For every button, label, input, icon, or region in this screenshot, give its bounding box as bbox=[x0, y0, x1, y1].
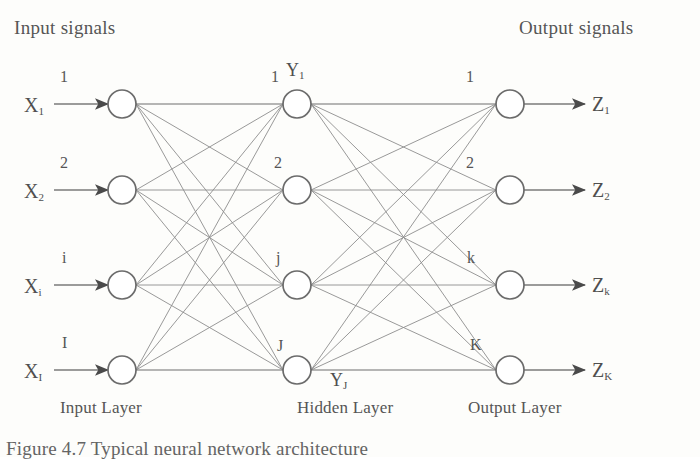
output-signal-label-2: Z2 bbox=[592, 180, 610, 200]
hidden-output-label-first: Y1 bbox=[286, 61, 305, 79]
input-node-index-i: i bbox=[62, 250, 66, 266]
input-node-index-I: I bbox=[62, 335, 67, 351]
hidden-node-index-1: 1 bbox=[271, 69, 279, 85]
input-hidden-connections bbox=[136, 104, 283, 370]
input-signal-label-1: X1 bbox=[24, 95, 44, 115]
input-signal-sub-I: I bbox=[38, 371, 42, 383]
hidden-node-index-J: J bbox=[277, 338, 283, 354]
hidden-output-base-first: Y bbox=[286, 60, 299, 80]
output-node-2 bbox=[496, 176, 524, 204]
input-signals-header: Input signals bbox=[14, 18, 116, 37]
output-signal-sub-k: k bbox=[604, 285, 610, 297]
output-signal-sub-2: 2 bbox=[604, 190, 610, 202]
output-node-3 bbox=[496, 271, 524, 299]
output-node-1 bbox=[496, 90, 524, 118]
output-signal-base-2: Z bbox=[592, 179, 604, 201]
figure-caption: Figure 4.7 Typical neural network archit… bbox=[6, 438, 368, 460]
output-signal-arrows bbox=[524, 104, 585, 370]
input-node-2 bbox=[108, 176, 136, 204]
hidden-layer-label: Hidden Layer bbox=[297, 399, 393, 416]
hidden-output-sub-first: 1 bbox=[299, 69, 305, 81]
hidden-node-index-j: j bbox=[276, 250, 280, 266]
output-signal-label-k: Zk bbox=[592, 275, 610, 295]
output-signal-sub-K: K bbox=[604, 370, 612, 382]
hidden-node-2 bbox=[283, 176, 311, 204]
output-signals-header: Output signals bbox=[519, 18, 634, 37]
input-node-index-1: 1 bbox=[60, 69, 68, 85]
input-layer-nodes bbox=[108, 90, 136, 384]
input-node-4 bbox=[108, 356, 136, 384]
input-layer-label: Input Layer bbox=[60, 399, 142, 416]
hidden-node-4 bbox=[283, 356, 311, 384]
output-node-4 bbox=[496, 356, 524, 384]
input-signal-base-2: X bbox=[24, 180, 38, 202]
input-signal-label-I: XI bbox=[24, 361, 42, 381]
input-signal-label-i: Xi bbox=[24, 276, 42, 296]
input-signal-base-i: X bbox=[24, 275, 38, 297]
input-node-3 bbox=[108, 271, 136, 299]
input-signal-label-2: X2 bbox=[24, 181, 44, 201]
hidden-output-sub-last: J bbox=[343, 379, 347, 391]
output-node-index-K: K bbox=[470, 337, 482, 353]
input-node-index-2: 2 bbox=[60, 155, 68, 171]
hidden-node-3 bbox=[283, 271, 311, 299]
output-signal-sub-1: 1 bbox=[604, 104, 610, 116]
output-layer-label: Output Layer bbox=[468, 399, 562, 416]
output-signal-label-1: Z1 bbox=[592, 94, 610, 114]
output-node-index-1: 1 bbox=[466, 69, 474, 85]
input-signal-sub-2: 2 bbox=[38, 191, 44, 203]
output-signal-base-1: Z bbox=[592, 93, 604, 115]
output-layer-nodes bbox=[496, 90, 524, 384]
input-signal-base-I: X bbox=[24, 360, 38, 382]
input-node-1 bbox=[108, 90, 136, 118]
hidden-layer-nodes bbox=[283, 90, 311, 384]
output-signal-base-k: Z bbox=[592, 274, 604, 296]
hidden-output-base-last: Y bbox=[330, 370, 343, 390]
input-signal-sub-i: i bbox=[38, 286, 41, 298]
output-signal-label-K: ZK bbox=[592, 360, 612, 380]
hidden-node-1 bbox=[283, 90, 311, 118]
input-signal-sub-1: 1 bbox=[38, 105, 44, 117]
hidden-output-label-last: YJ bbox=[330, 371, 347, 389]
output-node-index-2: 2 bbox=[466, 155, 474, 171]
hidden-output-connections bbox=[311, 104, 496, 370]
input-signal-arrows bbox=[54, 104, 108, 370]
input-signal-base-1: X bbox=[24, 94, 38, 116]
output-node-index-k: k bbox=[467, 250, 475, 266]
output-signal-base-K: Z bbox=[592, 359, 604, 381]
hidden-node-index-2: 2 bbox=[274, 155, 282, 171]
